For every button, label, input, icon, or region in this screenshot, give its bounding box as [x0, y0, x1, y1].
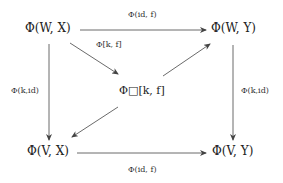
arrow-diag-down — [72, 107, 118, 137]
node-top-left: Φ(W, X) — [25, 21, 71, 35]
node-bottom-left: Φ(V, X) — [27, 144, 69, 158]
label-top-arrow: Φ(id, f) — [128, 10, 157, 19]
arrow-diag-up — [163, 44, 210, 76]
label-right-arrow: Φ(k,id) — [241, 86, 269, 95]
label-diag-in: Φ[k, f] — [96, 40, 122, 49]
node-bottom-right: Φ(V, Y) — [212, 144, 253, 158]
label-left-arrow: Φ(k,id) — [11, 86, 39, 95]
node-top-right: Φ(W, Y) — [211, 21, 256, 35]
node-center: Φ□[k, f] — [119, 84, 165, 97]
label-bottom-arrow: Φ(id, f) — [128, 165, 157, 174]
